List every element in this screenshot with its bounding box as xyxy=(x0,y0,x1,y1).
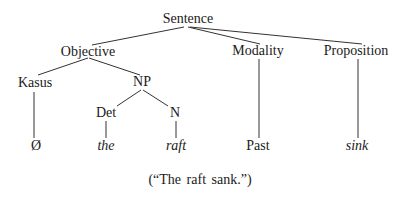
node-kasus: Kasus xyxy=(18,75,52,91)
edge-objective-np xyxy=(89,58,140,75)
leaf-raft: raft xyxy=(166,138,186,154)
leaf-sink: sink xyxy=(346,138,369,154)
node-objective: Objective xyxy=(61,44,115,60)
edge-objective-kasus xyxy=(38,58,88,75)
node-np: NP xyxy=(133,74,151,90)
leaf-empty: Ø xyxy=(31,138,41,154)
edge-sentence-modality xyxy=(188,27,260,44)
edge-np-det xyxy=(117,90,141,106)
node-det: Det xyxy=(96,105,116,121)
leaf-the: the xyxy=(97,138,114,154)
node-modality: Modality xyxy=(232,43,283,59)
edge-sentence-objective xyxy=(92,27,184,45)
diagram-caption: (“The raft sank.”) xyxy=(148,172,251,188)
leaf-past: Past xyxy=(246,138,269,154)
node-sentence: Sentence xyxy=(163,11,214,27)
edge-np-n xyxy=(143,90,168,106)
tree-edges xyxy=(0,0,405,199)
node-n: N xyxy=(170,105,180,121)
edge-sentence-proposition xyxy=(190,27,362,44)
node-proposition: Proposition xyxy=(324,43,389,59)
